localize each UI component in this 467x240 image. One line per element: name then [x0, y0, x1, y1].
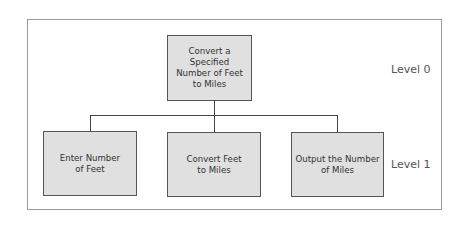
connector-right-down [337, 115, 338, 132]
connector-root-down [214, 100, 215, 132]
level-0-label: Level 0 [391, 63, 431, 76]
root-node: Convert a Specified Number of Feet to Mi… [167, 35, 252, 101]
child-node-label: Convert Feet to Miles [181, 154, 247, 176]
child-node-label: Enter Number of Feet [55, 153, 125, 175]
connector-left-down [90, 115, 91, 132]
connector-horizontal [90, 115, 338, 116]
child-node-output: Output the Number of Miles [291, 132, 384, 197]
child-node-enter-feet: Enter Number of Feet [43, 131, 137, 196]
level-1-label: Level 1 [391, 158, 431, 171]
root-node-label: Convert a Specified Number of Feet to Mi… [174, 46, 246, 90]
child-node-convert: Convert Feet to Miles [167, 132, 261, 197]
child-node-label: Output the Number of Miles [295, 154, 381, 176]
